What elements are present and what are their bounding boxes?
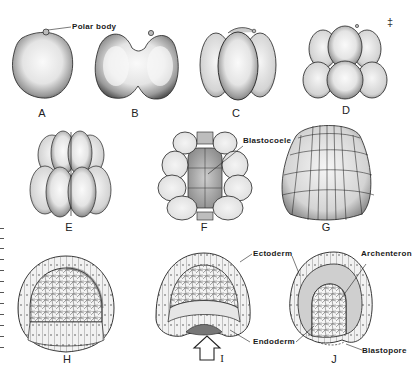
corner-mark: ‡ [387,16,393,28]
margin-mark [0,347,4,348]
panel-label-e: E [65,222,72,233]
panel-b-two-cell [95,30,178,99]
panel-label-i: I [220,353,224,364]
margin-mark [0,336,4,337]
panel-label-f: F [201,222,208,233]
invagination-arrow-icon [194,336,220,360]
margin-mark [0,270,4,271]
margin-mark [0,228,4,229]
panel-a-zygote [12,27,72,98]
margin-mark [0,259,4,260]
margin-mark [0,325,4,326]
panel-label-c: C [232,108,240,119]
margin-mark [0,238,4,239]
callout-endoderm: Endoderm [253,338,295,346]
callout-polar-body: Polar body [72,23,116,31]
panel-label-j: J [331,354,337,365]
embryo-diagram-canvas [0,0,418,375]
margin-mark [0,248,4,249]
polar-body-icon [148,30,153,35]
panel-h-blastula-section [18,256,114,352]
panel-label-g: G [322,222,331,233]
panel-label-d: D [342,105,350,116]
panel-label-b: B [131,108,138,119]
panel-label-a: A [38,108,45,119]
margin-mark [0,281,4,282]
panel-e-sixteen-cell [30,131,111,217]
margin-mark [0,303,4,304]
panel-f-section [158,132,252,220]
margin-mark [0,314,4,315]
panel-g-blastula [282,125,374,220]
panel-j-gastrula [290,252,372,350]
margin-mark [0,292,4,293]
panel-i-early-gastrula [156,253,252,360]
panel-d-eight-cell [303,24,387,99]
callout-blastocoele: Blastocoele [243,137,291,145]
callout-ectoderm: Ectoderm [253,250,292,258]
callout-archenteron: Archenteron [361,250,412,258]
panel-c-four-cell [200,28,276,100]
panel-label-h: H [63,354,71,365]
callout-blastopore: Blastopore [362,347,407,355]
